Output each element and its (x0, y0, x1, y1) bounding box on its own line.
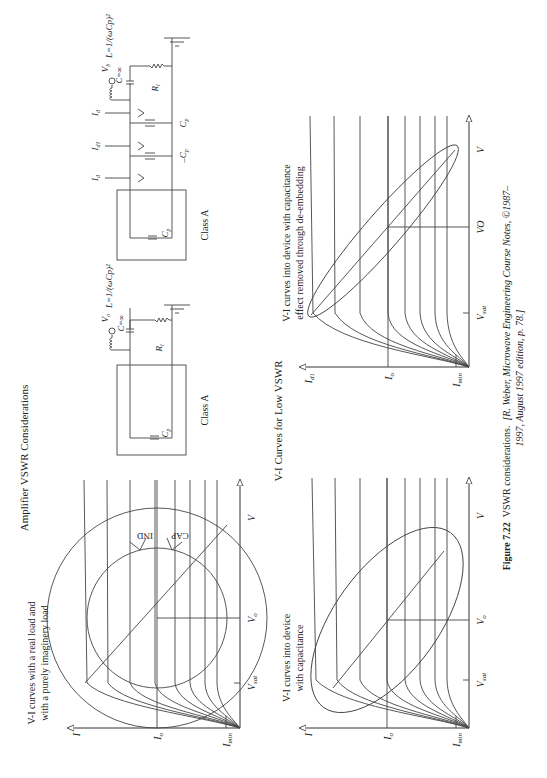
class-a-label: Class A (199, 394, 210, 426)
id-label: Id (90, 174, 101, 182)
v-label: V (475, 511, 486, 519)
caption-line-1: Figure 7.22VSWR considerations.[R. Weber… (501, 185, 512, 571)
plot-capacitance: V-I curves into device with capacitance … (281, 478, 493, 748)
plot-real-imaginary-load: V-I curves with a real load and with a p… (26, 480, 267, 748)
vo-label: VO (475, 220, 486, 233)
caption-line-2: 1997, August 1997 edition, p. 78.] (514, 310, 525, 447)
load-line (311, 150, 455, 315)
inductor-label: L=1/(ωCp)² (104, 14, 114, 59)
vo-label: Vo (100, 314, 111, 323)
down-arrow-icon (138, 109, 144, 117)
page-title: Amplifier VSWR Considerations (18, 385, 30, 531)
imin-label: Imin (451, 373, 464, 388)
rl-label: Rl (154, 344, 165, 353)
io-label: Io (152, 733, 165, 741)
plot-de-embedded: V-I curves into device with capacitance … (281, 116, 488, 388)
plot1-title-2: with a purely imaginery load (39, 605, 50, 721)
plot2-title-2: with capacitance (294, 624, 305, 691)
io-label: Io (383, 373, 396, 381)
inductor-icon (110, 85, 112, 100)
figure-caption: Figure 7.22VSWR considerations.[R. Weber… (501, 185, 525, 571)
id1-label: Id1 (303, 373, 316, 384)
coupling-cap-label: C=∞ (115, 66, 124, 83)
circuit-class-a-right: Id Id1 Id Vb L=1/(ωCp)² C=∞ Rl –Cp Cp Cp… (90, 14, 210, 260)
resistor-icon (130, 318, 172, 329)
down-arrow-icon (138, 174, 144, 182)
v-label: V (246, 513, 257, 521)
down-arrow-icon (138, 142, 144, 150)
v-label: V (475, 145, 486, 153)
iv-curve-family (310, 116, 469, 367)
imin-label: Imin (451, 733, 464, 748)
inductor-icon (110, 335, 112, 350)
plot1-title-1: V-I curves with a real load and (26, 602, 37, 725)
rotated-figure-page: Amplifier VSWR Considerations V-I Curves… (0, 0, 547, 778)
id-label: Id (90, 109, 101, 117)
real-load-line (85, 525, 227, 683)
cp-label: Cp (160, 428, 171, 437)
iv-curve-family (84, 480, 240, 728)
cap-label: CAP (171, 531, 189, 541)
circuit-class-a-left: Vo L=1/(ωCp)² C=∞ Rl Cp Class A (100, 264, 210, 455)
vo-terminal (109, 328, 115, 334)
plot3-title-2: effect removed through de-embedding (294, 166, 305, 319)
device-cp-label: Cp (160, 228, 171, 237)
cp-label: Cp (178, 118, 189, 127)
resistor-icon (130, 64, 172, 81)
neg-cp-label: –Cp (178, 149, 189, 164)
class-a-label: Class A (199, 209, 210, 241)
id1-label: Id1 (90, 142, 101, 152)
coupling-cap-label: C=∞ (117, 314, 126, 331)
vb-label: Vb (100, 64, 111, 73)
plot3-title-1: V-I curves into device with capacitance (281, 164, 292, 322)
device-box (117, 365, 186, 455)
vo-label: Vo (475, 615, 488, 625)
y-label: I (71, 732, 82, 737)
device-box (117, 190, 186, 260)
plot2-title-1: V-I curves into device (281, 613, 292, 702)
vo-label: Vo (246, 613, 259, 623)
inductor-label: L=1/(ωCp)² (104, 264, 114, 309)
vsat-label: Vsat (246, 675, 259, 690)
load-ellipse (295, 134, 470, 328)
rl-label: Rl (150, 84, 161, 93)
vsat-label: Vsat (475, 672, 488, 687)
load-line (333, 551, 444, 688)
page-subtitle: V-I Curves for Low VSWR (272, 360, 284, 482)
y-label: I (303, 732, 314, 737)
vsat-label: Vsat (475, 305, 488, 320)
ind-label: IND (137, 531, 153, 541)
imin-label: Imin (221, 733, 234, 748)
io-label: Io (382, 733, 395, 741)
